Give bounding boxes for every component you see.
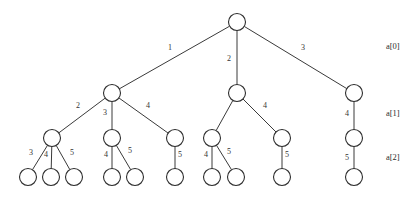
edge-weight-label: 5 (227, 148, 231, 156)
tree-edge (119, 98, 168, 133)
nodes-group (20, 14, 363, 186)
edge-weight-label: 3 (301, 44, 305, 52)
edge-weight-label: 4 (204, 151, 208, 159)
edge-weight-label: 3 (29, 149, 33, 157)
tree-edge (59, 98, 105, 133)
tree-node (346, 169, 363, 186)
tree-graph (0, 0, 419, 199)
edges-group (32, 26, 354, 170)
tree-edge (216, 100, 233, 130)
tree-node (204, 169, 221, 186)
tree-edge (119, 26, 229, 89)
tree-edge (243, 99, 276, 132)
edge-weight-label: 1 (168, 44, 172, 52)
tree-node (127, 169, 144, 186)
tree-edge (51, 147, 52, 169)
edge-weight-label: 5 (128, 147, 132, 155)
tree-diagram-canvas: 123234443454554555 a[0]a[1]a[2] (0, 0, 419, 199)
edge-weight-label: 4 (146, 102, 150, 110)
edge-weight-label: 5 (178, 151, 182, 159)
tree-node (167, 169, 184, 186)
edge-weight-label: 5 (70, 149, 74, 157)
tree-node (66, 169, 83, 186)
edge-weight-label: 4 (104, 151, 108, 159)
level-label-0: a[0] (386, 42, 400, 51)
tree-node (229, 85, 246, 102)
tree-edge (244, 26, 346, 88)
tree-node (104, 130, 121, 147)
tree-node (228, 169, 245, 186)
tree-node (346, 85, 363, 102)
edge-weight-label: 3 (103, 109, 107, 117)
tree-node (204, 130, 221, 147)
tree-node (104, 85, 121, 102)
tree-node (167, 130, 184, 147)
tree-node (104, 169, 121, 186)
edge-weight-label: 4 (44, 151, 48, 159)
edge-weight-label: 4 (345, 110, 349, 118)
edge-weight-label: 2 (227, 55, 231, 63)
level-label-2: a[2] (386, 153, 400, 162)
edge-weight-label: 4 (263, 102, 267, 110)
level-label-1: a[1] (386, 109, 400, 118)
edge-weight-label: 2 (76, 102, 80, 110)
edge-weight-label: 5 (285, 151, 289, 159)
tree-node (229, 14, 246, 31)
tree-node (43, 169, 60, 186)
tree-node (20, 169, 37, 186)
tree-node (274, 130, 291, 147)
edge-weight-label: 5 (345, 154, 349, 162)
tree-node (274, 169, 291, 186)
tree-edge (56, 145, 70, 169)
tree-node (346, 130, 363, 147)
tree-node (44, 130, 61, 147)
